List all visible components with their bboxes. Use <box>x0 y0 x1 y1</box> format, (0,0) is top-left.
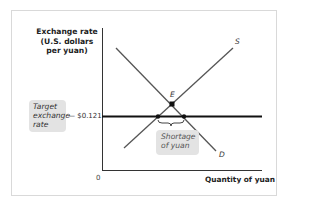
y-axis-label: Exchange rate (U.S. dollars per yuan) <box>34 27 100 56</box>
shortage-annotation: Shortage of yuan <box>156 130 199 155</box>
y-axis-label-line: Exchange rate <box>34 27 100 37</box>
x-axis-label: Quantity of yuan <box>205 175 275 184</box>
annotation-line: Target <box>33 102 66 111</box>
equilibrium-point <box>170 102 175 107</box>
origin-label: 0 <box>96 174 100 182</box>
annotation-line: rate <box>33 120 66 129</box>
target-rate-annotation: Target exchange rate <box>29 100 66 132</box>
demand-at-target-point <box>156 114 160 118</box>
equilibrium-label: E <box>170 90 175 99</box>
y-tick-label: — $0.121 <box>68 112 102 120</box>
annotation-line: exchange <box>33 111 66 120</box>
supply-at-target-point <box>182 114 186 118</box>
y-axis-label-line: (U.S. dollars <box>34 37 100 47</box>
y-axis-label-line: per yuan) <box>34 46 100 56</box>
shortage-brace <box>158 120 184 126</box>
annotation-line: Shortage <box>161 132 199 141</box>
demand-label: D <box>219 150 225 159</box>
annotation-line: of yuan <box>161 141 199 150</box>
supply-label: S <box>235 37 240 46</box>
